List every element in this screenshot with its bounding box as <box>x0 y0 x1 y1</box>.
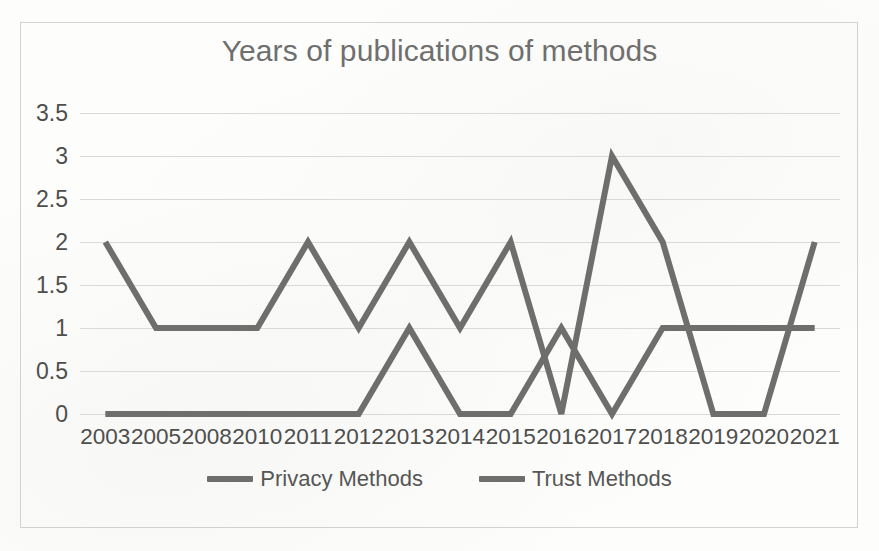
y-tick-label-3.5: 3.5 <box>36 102 68 125</box>
x-tick-label-2012: 2012 <box>334 424 384 450</box>
y-tick-label-3: 3 <box>55 145 68 168</box>
x-tick-label-2005: 2005 <box>131 424 181 450</box>
plot-area <box>80 113 840 414</box>
gridline-3.5 <box>80 113 840 114</box>
y-tick-label-0: 0 <box>55 403 68 426</box>
legend-item-privacy-methods[interactable]: Privacy Methods <box>207 466 423 492</box>
x-tick-label-2016: 2016 <box>536 424 586 450</box>
y-tick-label-2: 2 <box>55 231 68 254</box>
gridline-3 <box>80 156 840 157</box>
x-tick-label-2013: 2013 <box>384 424 434 450</box>
legend-swatch-privacy-methods <box>207 476 253 482</box>
gridline-0 <box>80 414 840 415</box>
y-tick-label-1: 1 <box>55 317 68 340</box>
legend-label-trust-methods: Trust Methods <box>532 466 672 492</box>
y-tick-label-0.5: 0.5 <box>36 360 68 383</box>
x-tick-label-2008: 2008 <box>182 424 232 450</box>
legend-item-trust-methods[interactable]: Trust Methods <box>479 466 672 492</box>
x-axis: 2003200520082010201120122013201420152016… <box>80 424 840 454</box>
x-tick-label-2019: 2019 <box>688 424 738 450</box>
gridline-2.5 <box>80 199 840 200</box>
gridline-1.5 <box>80 285 840 286</box>
gridline-2 <box>80 242 840 243</box>
legend-label-privacy-methods: Privacy Methods <box>260 466 423 492</box>
x-tick-label-2021: 2021 <box>790 424 840 450</box>
x-tick-label-2018: 2018 <box>638 424 688 450</box>
x-tick-label-2011: 2011 <box>284 424 332 450</box>
chart-title: Years of publications of methods <box>0 34 879 68</box>
y-tick-label-1.5: 1.5 <box>36 274 68 297</box>
chart-page: Years of publications of methods 00.511.… <box>0 0 879 551</box>
legend-swatch-trust-methods <box>479 476 525 482</box>
x-tick-label-2017: 2017 <box>587 424 637 450</box>
y-tick-label-2.5: 2.5 <box>36 188 68 211</box>
x-tick-label-2010: 2010 <box>232 424 282 450</box>
chart-legend: Privacy Methods Trust Methods <box>0 466 879 492</box>
x-tick-label-2003: 2003 <box>80 424 130 450</box>
x-tick-label-2014: 2014 <box>435 424 485 450</box>
x-tick-label-2015: 2015 <box>486 424 536 450</box>
gridline-0.5 <box>80 371 840 372</box>
gridline-1 <box>80 328 840 329</box>
x-tick-label-2020: 2020 <box>739 424 789 450</box>
